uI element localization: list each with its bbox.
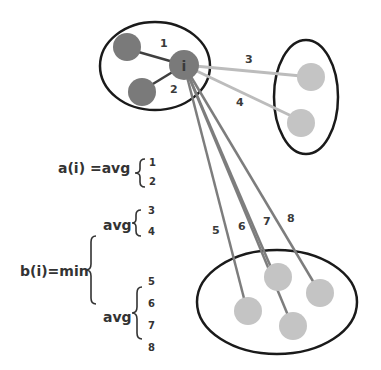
cluster2-point-1 [297, 63, 325, 91]
formula-b-group1-op: avg [103, 217, 132, 233]
brace-b-group1 [132, 210, 141, 236]
edge-label-8: 8 [287, 212, 295, 225]
cluster3-point-1 [264, 263, 292, 291]
edge-label-6: 6 [238, 220, 246, 233]
point-i-label: i [182, 58, 187, 74]
edge-label-7: 7 [263, 215, 271, 228]
cluster-2-outline [274, 40, 338, 154]
formula-b-group2-term-3: 7 [148, 320, 155, 331]
formula-b-lhs: b(i)=min [20, 263, 89, 279]
brace-b-outer [86, 236, 96, 304]
silhouette-diagram: i 1 2 3 4 5 6 7 8 a(i) =avg 1 2 b(i)=min… [0, 0, 381, 370]
formula-a-lhs: a(i) =avg [58, 160, 130, 176]
edge-8 [184, 65, 320, 293]
own-point-2 [128, 78, 156, 106]
formula-b-group2-term-4: 8 [148, 342, 155, 353]
brace-b-group2 [132, 287, 142, 339]
formula-b-group2-op: avg [103, 309, 132, 325]
edge-label-5: 5 [212, 224, 220, 237]
formula-b-group2-term-2: 6 [148, 298, 155, 309]
cluster3-point-2 [234, 297, 262, 325]
formula-a-term-2: 2 [149, 176, 156, 187]
formula-b-group2-term-1: 5 [148, 276, 155, 287]
edge-label-2: 2 [170, 83, 178, 96]
edge-label-1: 1 [160, 37, 168, 50]
edge-label-4: 4 [236, 96, 244, 109]
formula-b-group1-term-2: 4 [148, 226, 155, 237]
formula-a-term-1: 1 [149, 157, 156, 168]
cluster2-point-2 [287, 109, 315, 137]
cluster3-point-4 [279, 312, 307, 340]
brace-a [135, 159, 145, 187]
edge-label-3: 3 [245, 53, 253, 66]
own-point-1 [113, 33, 141, 61]
formula-b-group1-term-1: 3 [148, 205, 155, 216]
cluster3-point-3 [306, 279, 334, 307]
